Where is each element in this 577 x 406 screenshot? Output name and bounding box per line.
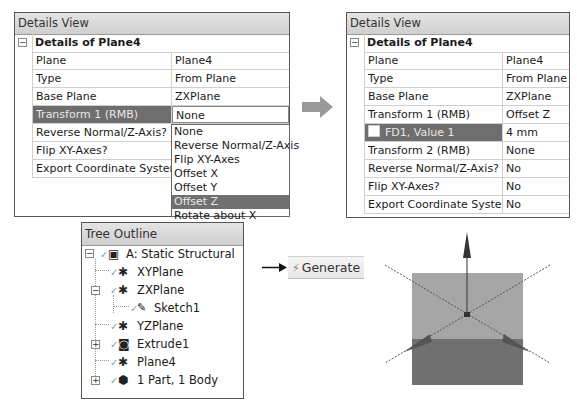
property-row-transform-2[interactable]: Transform 2 (RMB) None [364,142,569,160]
property-label: Type [364,70,503,87]
property-value[interactable]: No [503,178,569,195]
dropdown-option-rotate-x[interactable]: Rotate about X [172,209,289,223]
property-value[interactable]: No [503,160,569,177]
tree-item-label: 1 Part, 1 Body [137,371,218,389]
collapse-icon[interactable]: − [350,38,359,47]
plane-icon: ✱ [118,281,128,299]
details-view-panel-after: Details View − Details of Plane4 Plane P… [346,12,570,218]
dropdown-option-none[interactable]: None [172,125,289,139]
sketch-icon: ✎ [137,299,146,317]
property-row-base-plane[interactable]: Base Plane ZXPlane [364,88,569,106]
expand-icon[interactable]: + [91,376,100,385]
tree-outline-panel: Tree Outline − ✓ ▣ A: Static Structural … [81,222,244,399]
group-label: Details of Plane4 [364,34,569,53]
right-arrow-icon [302,96,334,118]
property-value[interactable]: Plane4 [172,52,289,69]
property-row-reverse-normal[interactable]: Reverse Normal/Z-Axis? [32,124,172,142]
property-row-fd1-value[interactable]: FD1, Value 1 4 mm [364,124,569,142]
tree-item-plane4[interactable]: ✓ ✱ Plane4 [82,353,242,371]
generate-button[interactable]: ⚡Generate [288,256,364,279]
geometry-viewport[interactable] [370,225,577,406]
dropdown-option-offset-z[interactable]: Offset Z [172,195,289,209]
dropdown-option-offset-y[interactable]: Offset Y [172,181,289,195]
tree-item-yzplane[interactable]: ✓ ✱ YZPlane [82,317,242,335]
tree-item-label: YZPlane [137,317,183,335]
dropdown-option-reverse-normal[interactable]: Reverse Normal/Z-Axis [172,139,289,153]
property-label: Export Coordinate System? [32,160,172,177]
property-value[interactable]: ZXPlane [503,88,569,105]
generate-label: Generate [302,260,360,275]
body-icon: ⬢ [118,371,128,389]
plane-origin-marker [464,312,470,317]
tree-item-part-body[interactable]: + ✓ ⬢ 1 Part, 1 Body [82,371,242,389]
property-row-type[interactable]: Type From Plane [32,70,289,88]
property-row-flip-xy[interactable]: Flip XY-Axes? [32,142,172,160]
collapse-icon[interactable]: − [18,38,27,47]
property-label: Reverse Normal/Z-Axis? [364,160,503,177]
property-label: Export Coordinate System? [364,196,503,213]
property-label: Transform 2 (RMB) [364,142,503,159]
static-structural-icon: ▣ [108,245,119,263]
property-value[interactable]: No [503,196,569,213]
property-label: Plane [364,52,503,69]
property-row-transform-1[interactable]: Transform 1 (RMB) None [32,106,289,124]
tree-item-label: Plane4 [137,353,176,371]
property-value[interactable]: From Plane [172,70,289,87]
plane-icon: ✱ [118,263,128,281]
tree-item-label: ZXPlane [137,281,184,299]
extrude-icon: ◙ [118,335,130,353]
property-value[interactable]: Plane4 [503,52,569,69]
property-label: Reverse Normal/Z-Axis? [32,124,172,141]
property-value[interactable]: ZXPlane [172,88,289,105]
panel-title: Details View [15,13,289,35]
property-row-export-cs[interactable]: Export Coordinate System? No [364,196,569,214]
transform-dropdown-value[interactable]: None [172,106,289,123]
property-label: Transform 1 (RMB) [32,106,172,123]
collapse-icon[interactable]: − [85,249,94,258]
property-label: FD1, Value 1 [364,124,503,141]
property-row-reverse-normal[interactable]: Reverse Normal/Z-Axis? No [364,160,569,178]
property-row-type[interactable]: Type From Plane [364,70,569,88]
collapse-icon[interactable]: − [91,286,100,295]
dropdown-option-offset-x[interactable]: Offset X [172,167,289,181]
property-row-base-plane[interactable]: Base Plane ZXPlane [32,88,289,106]
property-label: Transform 1 (RMB) [364,106,503,123]
group-header[interactable]: − Details of Plane4 [15,34,289,52]
plane-icon: ✱ [118,317,128,335]
property-label: Type [32,70,172,87]
property-label: Base Plane [364,88,503,105]
details-view-panel-before: Details View − Details of Plane4 Plane P… [14,12,290,217]
group-label: Details of Plane4 [32,34,289,53]
property-label: Flip XY-Axes? [32,142,172,159]
tree-item-label: Sketch1 [154,299,200,317]
property-value[interactable]: Offset Z [503,106,569,123]
panel-title: Details View [347,13,569,35]
parameter-checkbox[interactable] [368,125,380,137]
tree-item-extrude1[interactable]: + ✓ ◙ Extrude1 [82,335,242,353]
group-header[interactable]: − Details of Plane4 [347,34,569,52]
property-row-plane[interactable]: Plane Plane4 [364,52,569,70]
dropdown-option-flip-xy[interactable]: Flip XY-Axes [172,153,289,167]
plane-icon: ✱ [118,353,128,371]
property-value[interactable]: From Plane [503,70,569,87]
tree-item-sketch1[interactable]: ✓ ✎ Sketch1 [82,299,242,317]
body-front-face [412,339,523,385]
transform-dropdown-list[interactable]: None Reverse Normal/Z-Axis Flip XY-Axes … [171,124,290,217]
panel-title: Tree Outline [82,223,243,246]
property-row-plane[interactable]: Plane Plane4 [32,52,289,70]
property-value[interactable]: None [503,142,569,159]
offset-value-input[interactable]: 4 mm [503,124,569,141]
generate-icon: ⚡ [292,262,300,275]
tree-item-xyplane[interactable]: ✓ ✱ XYPlane [82,263,242,281]
property-row-flip-xy[interactable]: Flip XY-Axes? No [364,178,569,196]
tree-item-label: A: Static Structural [126,245,235,263]
property-label: Flip XY-Axes? [364,178,503,195]
fd1-label: FD1, Value 1 [385,126,455,139]
property-row-export-cs[interactable]: Export Coordinate System? [32,160,172,178]
property-row-transform-1[interactable]: Transform 1 (RMB) Offset Z [364,106,569,124]
tree-item-label: XYPlane [137,263,183,281]
tree-item-zxplane[interactable]: − ✓ ✱ ZXPlane [82,281,242,299]
tree-item-label: Extrude1 [137,335,189,353]
tree-item-static-structural[interactable]: − ✓ ▣ A: Static Structural [82,245,242,263]
expand-icon[interactable]: + [91,340,100,349]
